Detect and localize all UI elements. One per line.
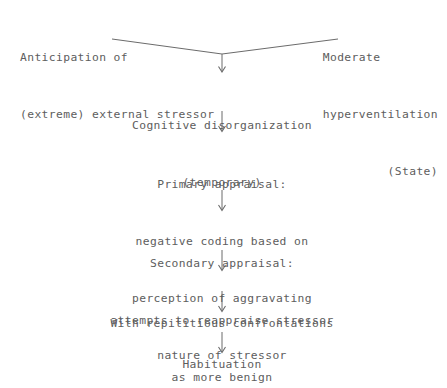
node-primary-appraisal-line-1: Primary appraisal: <box>132 175 312 194</box>
flowchart-diagram: Anticipation of (extreme) external stres… <box>0 0 447 388</box>
node-hyperventilation-line-3: (State) <box>323 162 438 181</box>
diagram-text-layer: Anticipation of (extreme) external stres… <box>0 0 447 388</box>
node-cognitive-disorganization-line-1: Cognitive disorganization <box>132 116 312 135</box>
node-anticipation-line-1: Anticipation of <box>20 48 214 67</box>
node-hyperventilation: Moderate hyperventilation (State) <box>323 10 438 219</box>
node-hyperventilation-line-2: hyperventilation <box>323 105 438 124</box>
node-secondary-appraisal-line-1: Secondary appraisal: <box>110 254 333 273</box>
node-reappraisal: Reappraisal in terms of personal compete… <box>143 358 301 388</box>
node-hyperventilation-line-1: Moderate <box>323 48 438 67</box>
